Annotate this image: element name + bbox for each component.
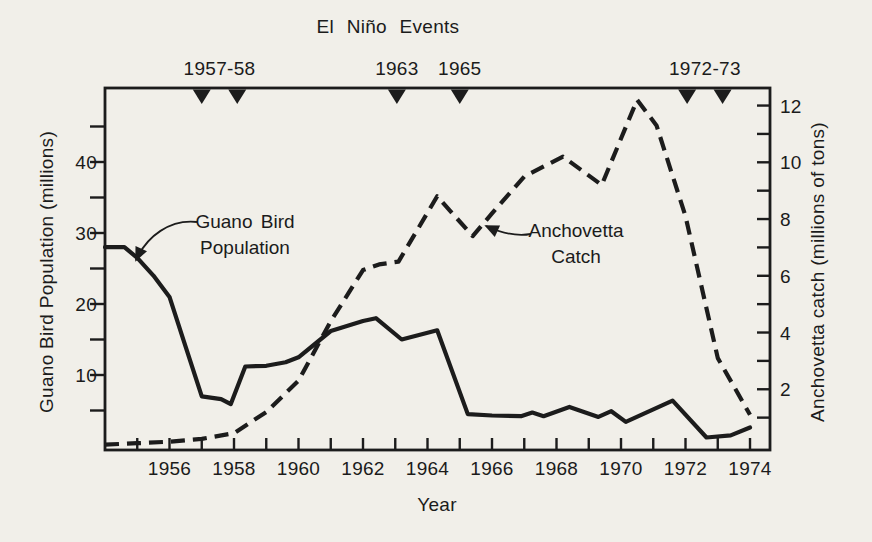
y-right-axis-title: Anchovetta catch (millions of tons)	[807, 122, 829, 422]
figure-el-nino-chart: 1956195819601962196419661968197019721974…	[0, 0, 872, 542]
y-right-tick-label: 12	[780, 96, 802, 117]
y-left-tick-label: 30	[75, 223, 97, 244]
guano-bird-line	[105, 247, 750, 437]
el-nino-marker-triangle	[714, 90, 732, 105]
y-left-tick-label: 40	[75, 152, 97, 173]
y-left-axis-title: Guano Bird Population (millions)	[36, 131, 58, 413]
x-tick-label: 1966	[470, 458, 513, 479]
y-right-tick-label: 2	[780, 379, 791, 400]
annotation-guano-line2: Population	[195, 235, 294, 261]
el-nino-marker-triangle	[451, 90, 469, 105]
chart-title: El Niño Events	[317, 16, 460, 38]
x-tick-label: 1970	[599, 458, 642, 479]
y-right-tick-label: 10	[780, 152, 802, 173]
annotation-arrow-anchovetta	[486, 226, 531, 235]
annotation-arrow-guano	[136, 222, 197, 260]
el-nino-marker-triangle	[228, 90, 246, 105]
x-tick-label: 1974	[728, 458, 772, 479]
y-left-tick-label: 10	[75, 365, 97, 386]
el-nino-event-label: 1963	[375, 58, 418, 79]
x-tick-label: 1968	[535, 458, 578, 479]
el-nino-marker-triangle	[678, 90, 696, 105]
x-tick-label: 1962	[341, 458, 384, 479]
x-tick-label: 1958	[212, 458, 255, 479]
y-left-tick-label: 20	[75, 294, 97, 315]
y-right-tick-label: 6	[780, 266, 791, 287]
annotation-guano-line1: Guano Bird	[195, 209, 294, 235]
el-nino-event-label: 1972-73	[669, 58, 741, 79]
el-nino-event-label: 1957-58	[184, 58, 256, 79]
x-tick-label: 1960	[277, 458, 320, 479]
annotation-anchovetta-line1: Anchovetta	[528, 218, 623, 244]
annotation-anchovetta: Anchovetta Catch	[528, 218, 623, 270]
y-right-tick-label: 8	[780, 209, 791, 230]
x-tick-label: 1956	[148, 458, 191, 479]
annotation-anchovetta-line2: Catch	[528, 244, 623, 270]
el-nino-marker-triangle	[193, 90, 211, 105]
x-tick-label: 1964	[406, 458, 450, 479]
y-right-tick-label: 4	[780, 323, 791, 344]
x-axis-title: Year	[417, 494, 457, 516]
el-nino-event-label: 1965	[438, 58, 481, 79]
annotation-guano-bird: Guano Bird Population	[195, 209, 294, 261]
chart-canvas: 1956195819601962196419661968197019721974…	[0, 0, 872, 542]
el-nino-marker-triangle	[388, 90, 406, 105]
x-tick-label: 1972	[664, 458, 707, 479]
